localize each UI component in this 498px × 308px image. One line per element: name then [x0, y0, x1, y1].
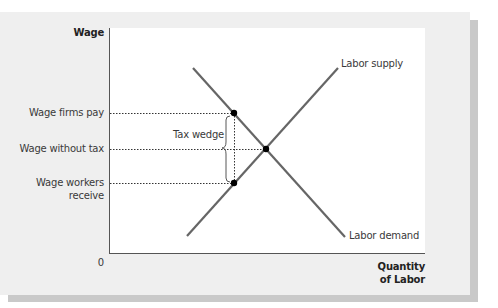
- origin-label: 0: [98, 257, 104, 268]
- labor-demand-label: Labor demand: [349, 230, 419, 241]
- tax-wedge-brace: [222, 116, 230, 182]
- wage-firms-pay-point: [231, 110, 237, 116]
- label-wage-workers-receive-1: Wage workers: [36, 177, 104, 188]
- labor-supply-label: Labor supply: [341, 58, 403, 69]
- equilibrium-point: [263, 146, 269, 152]
- label-wage-without-tax: Wage without tax: [19, 143, 104, 154]
- label-wage-firms-pay: Wage firms pay: [29, 107, 104, 118]
- y-axis-label: Wage: [73, 27, 104, 38]
- tax-wedge-label: Tax wedge: [173, 129, 224, 140]
- labor-supply-curve: [187, 68, 338, 236]
- x-axis-label-2: of Labor: [380, 274, 425, 285]
- x-axis-label-1: Quantity: [378, 261, 425, 272]
- label-wage-workers-receive-2: receive: [69, 190, 104, 201]
- labor-demand-curve: [193, 68, 345, 237]
- wage-workers-receive-point: [231, 180, 237, 186]
